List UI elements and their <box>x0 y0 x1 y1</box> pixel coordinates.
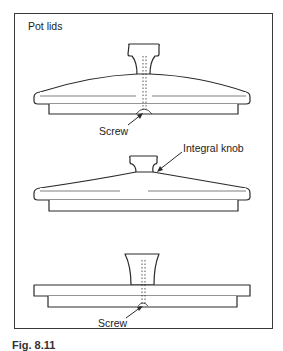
integral-knob-label: Integral knob <box>183 143 244 154</box>
lid-3-flat-screwed-knob <box>34 254 250 318</box>
screw-label-top: Screw <box>99 126 128 137</box>
pot-lids-diagram <box>0 0 283 351</box>
lid-2-domed-integral-knob <box>34 152 250 211</box>
screw-label-bottom: Screw <box>98 318 127 329</box>
figure-caption: Fig. 8.11 <box>12 340 55 351</box>
lid-1-domed-screwed-knob <box>34 44 250 125</box>
